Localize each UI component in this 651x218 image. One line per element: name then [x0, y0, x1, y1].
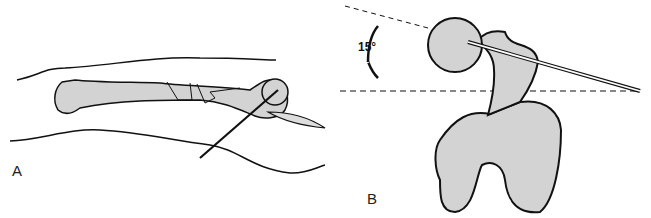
- angle-arc-down: [368, 62, 378, 78]
- panel-label-b: B: [367, 190, 377, 207]
- illustration: [0, 0, 651, 218]
- distal-femur: [435, 101, 561, 212]
- panel-label-a: A: [12, 162, 22, 179]
- reference-line-angled: [345, 6, 428, 28]
- incision: [268, 112, 325, 128]
- leg-outline-top: [17, 58, 276, 80]
- angle-label: 15°: [358, 40, 376, 54]
- leg-outline-bottom: [10, 130, 325, 173]
